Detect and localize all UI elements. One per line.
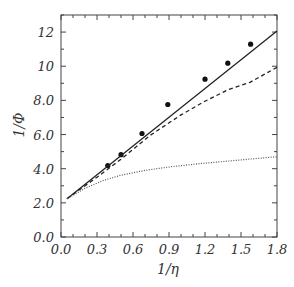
y-tick-label: 12 — [37, 25, 54, 40]
x-tick-labels: 0.00.30.60.91.21.51.8 — [51, 242, 288, 257]
y-tick-label: 10 — [37, 59, 54, 74]
y-tick-label: 4.0 — [32, 162, 54, 177]
x-tick-label: 0.9 — [159, 242, 180, 257]
x-tick-label: 0.3 — [87, 242, 108, 257]
data-point — [225, 61, 230, 66]
y-tick-label: 6.0 — [33, 128, 54, 143]
plot-border — [61, 15, 277, 237]
dashed-curve — [67, 67, 277, 198]
dotted-curve — [67, 157, 277, 199]
y-tick-label: 0.0 — [33, 230, 54, 245]
x-tick-label: 1.2 — [195, 242, 216, 257]
axis-ticks — [61, 15, 277, 237]
x-tick-label: 1.5 — [231, 242, 252, 257]
y-axis-label: 1/Φ — [11, 112, 27, 137]
x-tick-label: 0.6 — [123, 242, 144, 257]
data-point — [165, 102, 170, 107]
data-series — [67, 31, 277, 199]
y-tick-label: 2.0 — [32, 196, 54, 211]
x-axis-label: 1/η — [157, 261, 180, 277]
plot-frame — [61, 15, 277, 237]
data-point — [139, 131, 144, 136]
solid-curve — [67, 31, 277, 199]
y-tick-label: 8.0 — [33, 93, 54, 108]
chart: 0.00.30.60.91.21.51.8 0.02.04.06.08.0101… — [0, 0, 294, 287]
x-tick-label: 1.8 — [267, 242, 288, 257]
data-point — [248, 42, 253, 47]
data-point — [202, 77, 207, 82]
y-tick-labels: 0.02.04.06.08.01012 — [32, 25, 54, 245]
